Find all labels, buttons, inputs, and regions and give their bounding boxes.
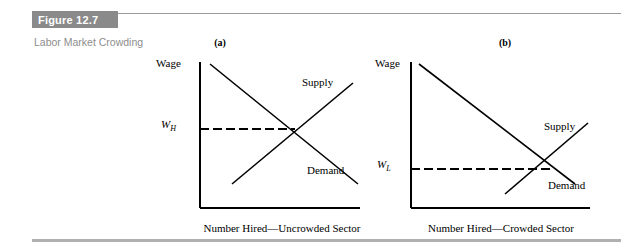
figure-number-banner: Figure 12.7 [32,11,118,28]
panel-a-x-axis-title: Number Hired—Uncrowded Sector [182,222,382,234]
panel-b-plot [362,0,621,249]
figure-page: Figure 12.7 Labor Market Crowding (a) Wa… [0,0,621,249]
panel-a-demand-curve [210,64,358,184]
panel-a-supply-curve [232,83,353,184]
panel-a-plot [150,0,380,249]
bottom-divider [32,239,621,242]
panel-b: (b) Wage WL Supply Demand Number Hired—C… [362,0,621,249]
panel-b-x-axis-title: Number Hired—Crowded Sector [401,222,601,234]
panel-b-supply-curve [505,123,588,194]
figure-caption: Labor Market Crowding [34,36,144,49]
figure-number-label: Figure 12.7 [32,14,98,26]
panel-a: (a) Wage WH Supply Demand Number Hired—U… [150,0,380,249]
panel-b-demand-curve [419,64,575,184]
